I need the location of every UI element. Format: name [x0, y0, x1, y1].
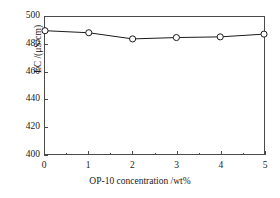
x-tick-label: 0: [42, 161, 47, 171]
x-tick-mark: [177, 151, 178, 155]
data-point-marker: [261, 31, 267, 37]
series-line: [45, 31, 264, 39]
x-tick-mark: [132, 151, 133, 155]
x-tick-label: 4: [218, 161, 223, 171]
y-tick-label: 400: [26, 150, 40, 160]
data-point-marker: [217, 34, 223, 40]
x-tick-label: 3: [174, 161, 179, 171]
x-tick-mark: [88, 151, 89, 155]
data-point-marker: [86, 30, 92, 36]
data-point-marker: [130, 36, 136, 42]
y-tick-mark: [44, 127, 48, 128]
y-tick-mark: [44, 155, 48, 156]
x-tick-label: 5: [263, 161, 268, 171]
x-minor-tick-mark: [66, 153, 67, 155]
x-tick-mark: [221, 151, 222, 155]
y-tick-mark: [44, 99, 48, 100]
y-axis-title: EC /(μS/cm): [33, 7, 43, 91]
x-minor-tick-mark: [199, 153, 200, 155]
data-series-ec: [45, 17, 264, 154]
x-tick-label: 1: [86, 161, 91, 171]
chart-figure: 400420440460480500 012345 EC /(μS/cm) OP…: [0, 0, 280, 198]
y-tick-mark: [44, 44, 48, 45]
x-minor-tick-mark: [243, 153, 244, 155]
plot-frame: [44, 16, 265, 155]
x-tick-label: 2: [130, 161, 135, 171]
y-tick-label: 440: [26, 94, 40, 104]
x-tick-mark: [265, 151, 266, 155]
x-minor-tick-mark: [110, 153, 111, 155]
x-minor-tick-mark: [155, 153, 156, 155]
y-tick-mark: [44, 72, 48, 73]
data-point-marker: [173, 34, 179, 40]
plot-area: [45, 17, 264, 154]
x-axis-title: OP-10 concentration /wt%: [0, 176, 280, 186]
y-tick-label: 420: [26, 122, 40, 132]
y-tick-mark: [44, 16, 48, 17]
x-tick-mark: [44, 151, 45, 155]
